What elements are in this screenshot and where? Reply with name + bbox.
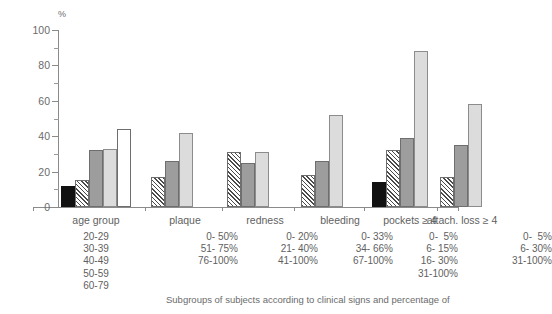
bar <box>414 51 428 207</box>
y-tick-major <box>52 101 59 102</box>
bar <box>315 161 329 207</box>
y-tick-label: 100 <box>8 24 50 36</box>
y-tick-label-wrap: 0 <box>5 207 50 208</box>
y-tick-label: 0 <box>8 201 50 213</box>
bar <box>165 161 179 207</box>
x-axis-tick <box>222 207 223 211</box>
bar <box>103 149 117 207</box>
bar-group <box>440 30 482 207</box>
bar-group <box>301 30 343 207</box>
bar <box>255 152 269 207</box>
y-tick-major <box>52 136 59 137</box>
y-tick-major <box>52 172 59 173</box>
bar-group <box>151 30 193 207</box>
y-tick-major <box>52 30 59 31</box>
y-tick-label-wrap: 40 <box>5 136 50 137</box>
bar <box>386 150 400 207</box>
subgroup-list-attachment-loss: 0- 5% 6- 30% 31-100% <box>372 231 552 268</box>
x-axis-tick <box>437 207 438 211</box>
x-axis-tick <box>458 207 459 211</box>
bar-group <box>227 30 269 207</box>
y-tick-label: 60 <box>8 95 50 107</box>
bar <box>75 180 89 207</box>
bar <box>241 163 255 207</box>
bar <box>400 138 414 207</box>
y-tick-label-wrap: 100 <box>5 30 50 31</box>
x-axis-tick <box>294 207 295 211</box>
y-tick-label: 20 <box>8 166 50 178</box>
bar <box>468 104 482 207</box>
x-axis-tick <box>33 207 34 211</box>
y-tick-major <box>52 65 59 66</box>
group-label-attachment-loss: attach. loss ≥ 4 <box>372 214 552 226</box>
bar <box>61 186 75 207</box>
x-axis-line <box>33 207 458 208</box>
y-tick-label: 80 <box>8 59 50 71</box>
bar <box>454 145 468 207</box>
bar <box>151 177 165 207</box>
bar <box>89 150 103 207</box>
bar-group <box>61 30 131 207</box>
x-axis-tick <box>145 207 146 211</box>
y-axis-unit-label: % <box>58 9 66 19</box>
y-tick-label-wrap: 80 <box>5 65 50 66</box>
bar <box>329 115 343 207</box>
bar <box>227 152 241 207</box>
bar <box>440 177 454 207</box>
x-axis-tick <box>364 207 365 211</box>
y-tick-label-wrap: 60 <box>5 101 50 102</box>
y-tick-label-wrap: 20 <box>5 172 50 173</box>
y-tick-major <box>52 207 59 208</box>
y-tick-label: 40 <box>8 130 50 142</box>
bar <box>372 182 386 207</box>
figure-caption: Subgroups of subjects according to clini… <box>166 294 450 305</box>
bar <box>301 175 315 207</box>
bar-group <box>372 30 428 207</box>
bar <box>179 133 193 207</box>
bar <box>117 129 131 207</box>
plot-area <box>59 30 458 207</box>
